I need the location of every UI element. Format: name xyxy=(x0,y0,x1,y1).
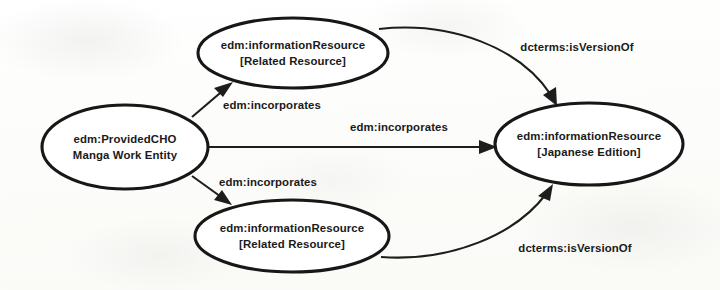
node-label-line2: Manga Work Entity xyxy=(73,149,178,161)
node-label-line1: edm:ProvidedCHO xyxy=(73,133,176,145)
edge-curve xyxy=(379,28,551,95)
edge-label-cho-to-top-related: edm:incorporates xyxy=(223,99,321,111)
edge-label-cho-to-bottom-related: edm:incorporates xyxy=(219,176,317,188)
arrow-head-icon xyxy=(214,190,232,205)
node-label-line2: [Related Resource] xyxy=(239,238,345,250)
node-provided-cho[interactable]: edm:ProvidedCHO Manga Work Entity xyxy=(42,105,208,189)
edge-cho-to-japanese[interactable] xyxy=(208,140,497,154)
node-label-line1: edm:informationResource xyxy=(221,39,366,51)
node-shape xyxy=(495,103,683,185)
node-shape xyxy=(195,200,389,272)
node-shape xyxy=(198,18,388,88)
node-label-line2: [Related Resource] xyxy=(240,55,346,67)
arrow-head-icon xyxy=(543,87,557,106)
diagram-canvas: edm:informationResource [Related Resourc… xyxy=(0,0,720,290)
node-label-line1: edm:informationResource xyxy=(517,130,662,142)
arrow-head-icon xyxy=(538,184,553,201)
node-related-resource-top[interactable]: edm:informationResource [Related Resourc… xyxy=(198,18,388,88)
diagram-svg: edm:informationResource [Related Resourc… xyxy=(0,0,720,290)
edge-label-top-related-to-japanese: dcterms:isVersionOf xyxy=(520,41,633,53)
node-label-line2: [Japanese Edition] xyxy=(537,146,641,158)
node-japanese-edition[interactable]: edm:informationResource [Japanese Editio… xyxy=(495,103,683,185)
node-shape xyxy=(42,105,208,189)
edge-label-cho-to-japanese: edm:incorporates xyxy=(350,121,448,133)
node-related-resource-bottom[interactable]: edm:informationResource [Related Resourc… xyxy=(195,200,389,272)
edge-top-related-to-japanese[interactable] xyxy=(379,28,557,106)
edge-label-bottom-related-to-japanese: dcterms:isVersionOf xyxy=(518,242,631,254)
node-label-line1: edm:informationResource xyxy=(220,222,365,234)
